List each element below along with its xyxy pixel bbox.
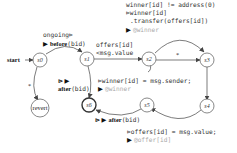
start-indicator: start [7,56,33,63]
svg-text:s1: s1 [84,56,89,62]
svg-text:s6: s6 [86,102,91,108]
state-s0: s0 [33,53,47,67]
state-machine-diagram: start s0 s1 s2 s3 s4 s5 s6 revert [0,0,237,153]
state-s1: s1 [80,52,94,66]
label-before-bid: ▶before(bid) [43,40,86,47]
state-s3: s3 [200,53,214,67]
label-at-winner-mid: ▶@winner [98,85,131,92]
svg-text:s5: s5 [144,102,149,108]
label-wildcard-s2-s3: * [176,51,179,58]
state-s2: s2 [142,52,156,66]
edge-s5-s6 [96,108,143,115]
svg-text:s3: s3 [204,57,209,63]
svg-text:s4: s4 [204,103,209,109]
label-at-offer: ▶@offer[id] [127,136,171,143]
label-at-winner-top: ▶@winner [126,26,159,33]
label-ongoing-guard: ongoing⊳ [43,31,73,39]
state-revert: revert [31,99,49,117]
state-s4: s4 [200,99,214,113]
label-after-bid-s1: after(bid) [58,85,90,92]
label-after-bid-s5: ⊳ ▶after(bid) [95,116,140,123]
label-transfer: .transfer(offers[id]) [130,17,208,24]
label-winner-guard: winner[id] != address(0) [126,1,215,8]
label-offers-assign: ⊳offers[id] = msg.value; [127,128,216,136]
label-offers-id: offers[id] [96,41,133,48]
state-s6-final: s6 [82,98,96,112]
svg-text:revert: revert [33,104,48,111]
edge-s2-s3-curve [155,40,204,53]
label-winner-assign: ⊳winner[id] = msg.sender; [98,77,191,85]
label-after-prefix-s1: ⊳ ▶ [58,77,70,84]
edge-s0-revert [34,67,38,100]
edge-s1-s6 [88,66,91,98]
label-winner-id: ⊳winner[id] [126,9,167,16]
edge-s0-s1 [46,46,82,54]
svg-text:s2: s2 [146,56,151,62]
start-label: start [7,56,21,63]
label-wildcard-revert: * [28,82,31,89]
edge-s4-s5 [151,108,201,119]
state-s5: s5 [140,98,154,112]
label-msg-value: <msg.value [96,49,134,57]
svg-text:s0: s0 [37,57,42,63]
